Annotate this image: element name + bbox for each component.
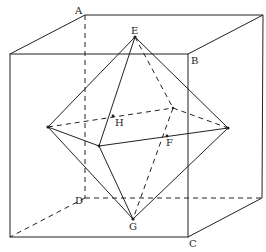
oct-edge-front-G [99,146,133,219]
cube-edge-top-right-depth [188,15,263,54]
oct-edge-E-right [135,37,228,128]
cube-edge-top-left-depth [10,15,85,54]
vertex-points [46,35,229,220]
point-H [112,115,115,118]
cube-edge-bottom-left-depth-hidden [10,198,85,237]
point-left [46,125,49,128]
octahedron [48,37,228,219]
label-A: A [74,5,83,16]
oct-edge-front-right [99,128,228,146]
label-C: C [189,238,197,249]
oct-edge-left-G [48,127,133,219]
point-right [226,126,229,129]
octahedron-in-cube-diagram: A B C D E F G H [0,0,266,252]
cube-edge-back-right [262,15,263,198]
label-D: D [75,195,83,206]
cube-edge-bottom-right-depth [188,198,262,237]
oct-edge-back-G [133,108,173,219]
label-E: E [131,25,138,36]
oct-edge-E-front [99,37,135,146]
label-H: H [115,117,124,128]
point-front [98,145,101,148]
label-F: F [166,137,173,148]
label-B: B [191,55,198,66]
oct-edge-E-left [48,37,135,127]
label-G: G [129,221,137,232]
labels: A B C D E F G H [74,5,198,249]
point-back [172,107,174,109]
oct-edge-right-G [133,128,228,219]
oct-edge-left-front [48,127,99,146]
oct-edge-back-right [173,108,228,128]
oct-edge-E-back [135,37,173,108]
